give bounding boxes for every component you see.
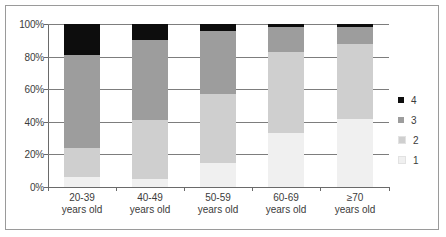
- segment-4-0: [64, 24, 100, 55]
- segment-1-3: [268, 133, 304, 187]
- segment-1-2: [200, 163, 236, 187]
- x-label-3-line2: years old: [251, 204, 321, 216]
- legend-label-3: 3: [411, 115, 417, 126]
- segment-1-1: [132, 179, 168, 187]
- segment-3-2: [200, 31, 236, 95]
- x-label-3-line1: 60-69: [273, 192, 299, 203]
- bar-50-59[interactable]: [200, 24, 236, 187]
- x-label-1-line2: years old: [115, 204, 185, 216]
- segment-1-4: [337, 119, 373, 187]
- x-label-2-line1: 50-59: [205, 192, 231, 203]
- legend-swatch-4-icon: [398, 97, 404, 103]
- segment-4-4: [337, 24, 373, 27]
- segment-4-2: [200, 24, 236, 31]
- segment-2-1: [132, 120, 168, 179]
- y-axis-labels: 100% 80% 60% 40% 20% 0%: [6, 24, 44, 187]
- legend-item-2[interactable]: 2: [398, 130, 438, 150]
- segment-3-3: [268, 27, 304, 51]
- legend-label-4: 4: [411, 95, 417, 106]
- chart-frame: 100% 80% 60% 40% 20% 0% 20-39 years old: [5, 5, 439, 230]
- segment-2-3: [268, 52, 304, 134]
- segment-3-0: [64, 55, 100, 148]
- segment-3-1: [132, 40, 168, 120]
- y-tick-label-60: 60%: [10, 84, 44, 95]
- legend-label-2: 2: [413, 135, 419, 146]
- legend-swatch-1-icon: [398, 156, 406, 164]
- bar-70-plus[interactable]: [337, 24, 373, 187]
- x-tick-mark-5: [389, 187, 390, 191]
- bar-60-69[interactable]: [268, 24, 304, 187]
- legend-label-1: 1: [413, 155, 419, 166]
- legend-swatch-2-icon: [398, 136, 406, 144]
- x-label-1-line1: 40-49: [137, 192, 163, 203]
- x-label-0-line1: 20-39: [69, 192, 95, 203]
- segment-4-3: [268, 24, 304, 27]
- x-label-2-line2: years old: [183, 204, 253, 216]
- bar-20-39[interactable]: [64, 24, 100, 187]
- x-label-0-line2: years old: [47, 204, 117, 216]
- gridline-0: [48, 187, 389, 188]
- plot-area: [48, 24, 389, 187]
- legend-item-1[interactable]: 1: [398, 150, 438, 170]
- y-tick-label-80: 80%: [10, 51, 44, 62]
- x-label-4-line2: years old: [320, 204, 390, 216]
- legend-item-3[interactable]: 3: [398, 110, 438, 130]
- segment-2-2: [200, 94, 236, 162]
- y-tick-label-40: 40%: [10, 116, 44, 127]
- bar-40-49[interactable]: [132, 24, 168, 187]
- segment-1-0: [64, 177, 100, 187]
- segment-2-4: [337, 44, 373, 119]
- chart-legend: 4 3 2 1: [398, 90, 438, 170]
- x-axis-labels: 20-39 years old 40-49 years old 50-59 ye…: [48, 192, 389, 230]
- segment-2-0: [64, 148, 100, 177]
- segment-3-4: [337, 27, 373, 43]
- segment-4-1: [132, 24, 168, 40]
- legend-item-4[interactable]: 4: [398, 90, 438, 110]
- y-tick-label-0: 0%: [10, 182, 44, 193]
- y-tick-label-100: 100%: [10, 19, 44, 30]
- legend-swatch-3-icon: [398, 117, 404, 123]
- y-tick-label-20: 20%: [10, 149, 44, 160]
- x-label-4-line1: ≥70: [347, 192, 364, 203]
